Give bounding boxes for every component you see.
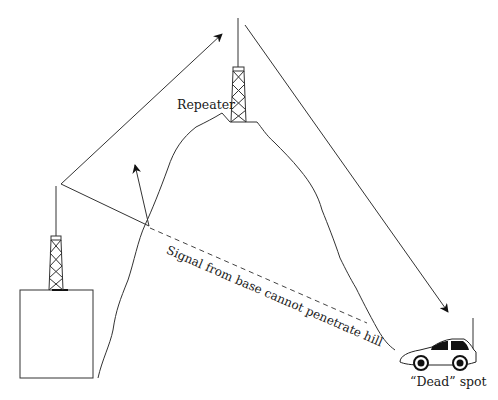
base-station — [20, 186, 93, 378]
base-tower-icon — [49, 186, 63, 290]
repeater-label: Repeater — [177, 97, 235, 112]
diagram-canvas — [0, 0, 498, 400]
signal-reflected — [135, 165, 149, 226]
signal-repeater-to-car — [245, 25, 448, 312]
car-icon — [400, 318, 476, 370]
dead-spot-label: “Dead” spot — [410, 374, 487, 389]
base-building — [20, 290, 93, 378]
hill — [98, 113, 395, 378]
signal-base-to-hill — [61, 184, 149, 226]
